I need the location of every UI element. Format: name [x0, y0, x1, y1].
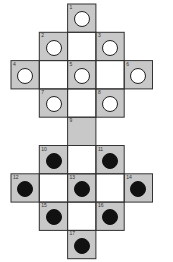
- board-outline: [0, 0, 173, 262]
- puzzle-board: 1234567891011121314151617: [0, 0, 173, 262]
